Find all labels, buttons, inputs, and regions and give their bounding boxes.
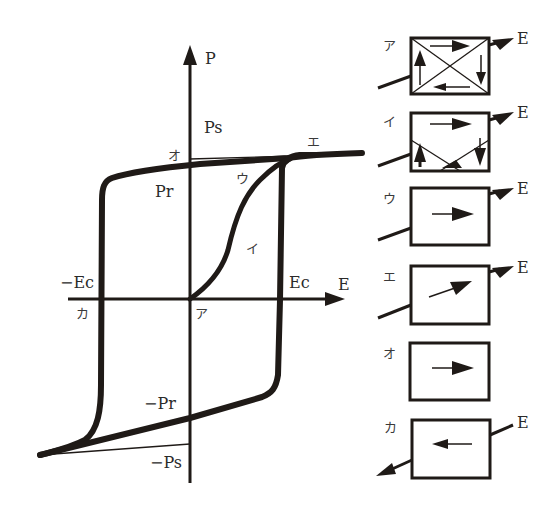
p-axis-label: P <box>205 49 216 68</box>
field-label: E <box>517 103 529 122</box>
domain-arrow-left-icon <box>432 439 448 449</box>
field-line-in <box>490 425 513 435</box>
field-line-in <box>378 305 411 318</box>
domain-arrow-right-icon <box>452 361 474 375</box>
box-label-e: エ <box>383 269 396 284</box>
box-label-u: ウ <box>383 191 396 206</box>
field-arrow-icon <box>492 38 514 50</box>
e-axis-arrow-icon <box>325 292 345 306</box>
box-label-ka: カ <box>384 420 397 435</box>
neg-pr-label: −Pr <box>144 394 176 413</box>
point-label-a: ア <box>195 306 208 321</box>
domain-box-u: ウ E <box>378 179 529 245</box>
field-line-in <box>378 228 411 240</box>
domain-arrow-up-icon <box>414 50 426 66</box>
domain-arrow-left-icon <box>433 83 446 91</box>
field-label: E <box>517 179 529 198</box>
box-label-a: ア <box>383 38 396 53</box>
ps-label: Ps <box>204 118 223 137</box>
p-axis-arrow-icon <box>183 45 197 65</box>
field-label: E <box>517 413 529 432</box>
field-line-in <box>378 154 411 166</box>
domain-box-a: ア E <box>378 29 529 94</box>
field-label: E <box>517 29 529 48</box>
upper-branch <box>40 153 362 455</box>
field-arrow-icon <box>492 266 514 278</box>
field-arrow-reverse-icon <box>376 463 396 476</box>
point-label-e: エ <box>307 134 320 149</box>
ec-label: Ec <box>289 273 310 292</box>
field-label: E <box>517 258 529 277</box>
e-axis-label: E <box>338 275 350 294</box>
domain-box-i: イ E <box>378 103 529 171</box>
domain-arrow-up-icon <box>414 143 426 162</box>
box-label-o: オ <box>383 346 396 361</box>
hysteresis-graph: P E Ps Pr −Ec Ec −Pr −Ps オ エ ウ イ カ ア <box>40 45 362 483</box>
neg-ps-label: −Ps <box>150 453 182 472</box>
field-arrow-icon <box>492 188 514 200</box>
domain-arrow-down-icon <box>476 72 486 85</box>
domain-arrow-right-icon <box>452 40 470 52</box>
box-label-i: イ <box>383 114 396 129</box>
domain-arrow-right-icon <box>452 207 474 221</box>
field-arrow-icon <box>492 112 514 125</box>
point-label-o: オ <box>168 148 181 163</box>
field-line-in <box>378 76 411 88</box>
domain-arrow-down-icon <box>474 148 486 166</box>
point-label-i: イ <box>246 241 259 256</box>
pr-label: Pr <box>155 182 174 201</box>
domain-box-o: オ <box>383 343 489 400</box>
domain-arrow-right-icon <box>452 118 472 130</box>
neg-ec-label: −Ec <box>60 273 94 292</box>
domain-box-ka: カ E <box>376 413 529 478</box>
domain-box-e: エ E <box>378 258 529 324</box>
point-label-ka: カ <box>76 306 89 321</box>
hysteresis-diagram: P E Ps Pr −Ec Ec −Pr −Ps オ エ ウ イ カ ア ア E <box>0 0 560 506</box>
point-label-u: ウ <box>236 171 249 186</box>
domain-arrow-tilted-icon <box>450 281 472 295</box>
